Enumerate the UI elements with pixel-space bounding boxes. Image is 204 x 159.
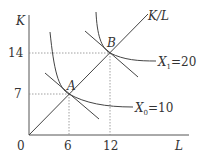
origin-label: 0	[17, 139, 25, 153]
x-axis-label: L	[174, 139, 183, 153]
y-tick-14: 14	[8, 46, 24, 60]
point-a-label: A	[66, 79, 76, 93]
isoquant-x0-label: X0=10	[134, 101, 173, 117]
isoquant-x1-label: X1=20	[157, 55, 196, 71]
x-tick-6: 6	[64, 139, 72, 153]
diagram-canvas: K L 0 14 7 6 12 K/L A B X0=10 X1=20	[0, 0, 204, 159]
isoquant-x0	[50, 32, 133, 107]
point-b-label: B	[106, 36, 116, 50]
x-tick-12: 12	[103, 139, 118, 153]
ray-label: K/L	[147, 9, 169, 23]
y-axis-label: K	[15, 14, 26, 28]
y-tick-7: 7	[14, 87, 22, 101]
